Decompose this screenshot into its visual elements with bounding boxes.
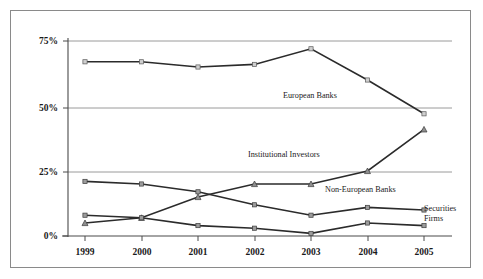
data-point xyxy=(252,203,256,207)
data-point xyxy=(196,224,200,228)
data-point xyxy=(421,126,427,132)
label-securities-firms-line1: Securities xyxy=(424,204,456,213)
data-point xyxy=(139,60,143,64)
x-tick-label-2000: 2000 xyxy=(133,247,152,257)
y-tickmarks xyxy=(63,41,68,236)
chart-figure: 75% 50% 25% 0% 1999 2000 2001 2002 2003 … xyxy=(0,0,483,279)
label-european-banks: European Banks xyxy=(283,91,337,100)
data-point xyxy=(83,213,87,217)
x-tick-label-2004: 2004 xyxy=(359,247,378,257)
axis-lines xyxy=(62,38,452,237)
x-tick-labels: 1999 2000 2001 2002 2003 2004 2005 xyxy=(76,247,434,257)
data-series-layer xyxy=(82,47,427,236)
data-point xyxy=(365,221,369,225)
data-point xyxy=(196,190,200,194)
label-non-european-banks: Non-European Banks xyxy=(325,185,396,194)
data-point xyxy=(309,231,313,235)
x-tick-label-2001: 2001 xyxy=(189,247,208,257)
data-point xyxy=(422,224,426,228)
x-tick-label-1999: 1999 xyxy=(76,247,95,257)
label-institutional-investors: Institutional Investors xyxy=(248,150,320,159)
data-point xyxy=(196,65,200,69)
series-european-banks xyxy=(83,47,426,116)
y-tick-label-50: 50% xyxy=(39,103,58,113)
series-line xyxy=(85,129,424,223)
data-point xyxy=(252,62,256,66)
data-point xyxy=(422,112,426,116)
y-tick-labels: 75% 50% 25% 0% xyxy=(39,36,58,241)
data-point xyxy=(365,78,369,82)
y-tick-label-0: 0% xyxy=(44,231,58,241)
series-annotations: European Banks Institutional Investors N… xyxy=(248,91,456,223)
data-point xyxy=(139,182,143,186)
y-tick-label-75: 75% xyxy=(39,36,58,46)
data-point xyxy=(365,205,369,209)
series-line xyxy=(85,215,424,233)
series-institutional-investors xyxy=(82,126,427,225)
data-point xyxy=(83,179,87,183)
data-point xyxy=(309,213,313,217)
data-point xyxy=(139,216,143,220)
data-point xyxy=(309,47,313,51)
x-tick-label-2003: 2003 xyxy=(302,247,321,257)
series-securities-firms xyxy=(83,213,426,235)
x-tick-label-2002: 2002 xyxy=(246,247,265,257)
label-securities-firms-line2: Firms xyxy=(424,214,443,223)
y-tick-label-25: 25% xyxy=(39,167,58,177)
data-point xyxy=(83,60,87,64)
x-tick-label-2005: 2005 xyxy=(415,247,434,257)
series-line xyxy=(85,49,424,114)
x-tickmarks xyxy=(85,236,424,241)
line-chart-canvas: 75% 50% 25% 0% 1999 2000 2001 2002 2003 … xyxy=(0,0,483,279)
data-point xyxy=(252,226,256,230)
